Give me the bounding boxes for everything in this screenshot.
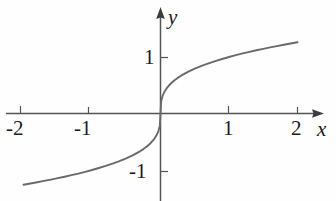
graph-figure: -2 -1 1 2 1 -1 x y [0,0,336,201]
x-axis-label: x [317,119,326,140]
x-axis-tick-label-minus1: -1 [74,118,92,139]
x-axis-tick-label-1: 1 [223,118,234,139]
x-axis-tick-label-minus2: -2 [6,118,24,139]
plot-canvas [0,0,336,201]
y-axis-tick-label-minus1: -1 [129,161,147,182]
x-axis-tick-label-2: 2 [291,118,302,139]
y-axis-arrow-icon [156,7,165,19]
y-axis-label: y [168,7,177,28]
y-axis-tick-label-1: 1 [144,47,155,68]
